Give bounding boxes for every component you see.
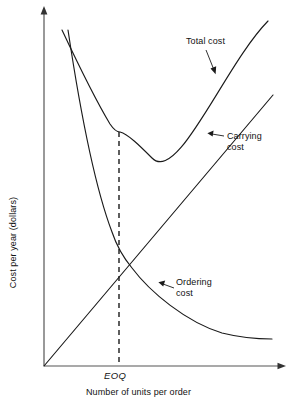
carrying-cost-leader [207, 131, 224, 137]
x-axis-title: Number of units per order [86, 387, 191, 398]
eoq-tick-label: EOQ [104, 370, 126, 381]
ordering-cost-curve [68, 30, 272, 339]
ordering-cost-label-line1: Ordering [176, 277, 212, 288]
y-axis [41, 6, 48, 366]
total-cost-label: Total cost [186, 36, 225, 47]
eoq-cost-chart: Total cost Carrying cost Ordering cost E… [0, 0, 296, 400]
total-cost-leader [206, 50, 216, 74]
ordering-cost-label-line2: cost [176, 288, 193, 299]
chart-canvas [0, 0, 296, 400]
y-axis-title: Cost per year (dollars) [8, 183, 19, 303]
ordering-cost-leader [158, 281, 174, 288]
x-axis [44, 363, 286, 369]
carrying-cost-label-line2: cost [227, 142, 244, 153]
carrying-cost-label-line1: Carrying [227, 131, 262, 142]
